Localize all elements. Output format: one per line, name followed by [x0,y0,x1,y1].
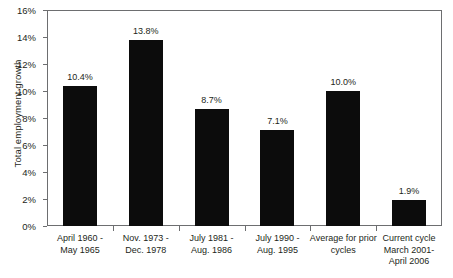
x-category-label-line: Nov. 1973 - [109,233,183,245]
x-category-label-line: Aug. 1986 [175,245,249,257]
y-tick-label: 14% [17,32,36,43]
x-category-label-line: May 1965 [43,245,117,257]
bar [392,200,426,226]
bar [129,40,163,226]
x-category-label: July 1990 -Aug. 1995 [240,233,314,256]
bar-value-label: 8.7% [201,95,222,105]
bar [260,130,294,226]
y-tick-mark [43,226,47,227]
y-axis-ticks: 0%2%4%6%8%10%12%14%16% [0,0,44,278]
x-category-label-line: July 1990 - [240,233,314,245]
y-tick-label: 0% [22,221,36,232]
x-tick-mark [113,226,114,231]
y-tick-label: 2% [22,194,36,205]
plot-area: 10.4%13.8%8.7%7.1%10.0%1.9% [47,10,442,226]
x-category-label-line: April 1960 - [43,233,117,245]
x-category-label: Nov. 1973 -Dec. 1978 [109,233,183,256]
bar-chart: Total employment growth 0%2%4%6%8%10%12%… [0,0,453,278]
bar [63,86,97,226]
x-category-label-line: cycles [306,245,380,257]
bar [326,91,360,226]
x-category-label-line: Current cycle [372,233,446,245]
x-category-label-line: Aug. 1995 [240,245,314,257]
bar-value-label: 7.1% [267,116,288,126]
x-category-label: Current cycleMarch 2001-April 2006 [372,233,446,268]
x-tick-mark [376,226,377,231]
y-tick-label: 12% [17,59,36,70]
bar-value-label: 10.0% [330,77,356,87]
x-category-label-line: Dec. 1978 [109,245,183,257]
bar [195,109,229,226]
x-tick-mark [179,226,180,231]
bar-value-label: 10.4% [67,72,93,82]
y-tick-label: 8% [22,113,36,124]
y-tick-label: 10% [17,86,36,97]
x-category-label: Average for priorcycles [306,233,380,256]
y-tick-label: 4% [22,167,36,178]
y-tick-label: 6% [22,140,36,151]
x-category-label: July 1981 -Aug. 1986 [175,233,249,256]
x-category-label-line: March 2001- [372,245,446,257]
x-category-label-line: April 2006 [372,256,446,268]
x-category-label-line: Average for prior [306,233,380,245]
x-category-label-line: July 1981 - [175,233,249,245]
x-tick-mark [245,226,246,231]
bar-value-label: 13.8% [133,26,159,36]
x-tick-mark [310,226,311,231]
x-category-label: April 1960 -May 1965 [43,233,117,256]
bar-value-label: 1.9% [399,186,420,196]
y-tick-label: 16% [17,5,36,16]
